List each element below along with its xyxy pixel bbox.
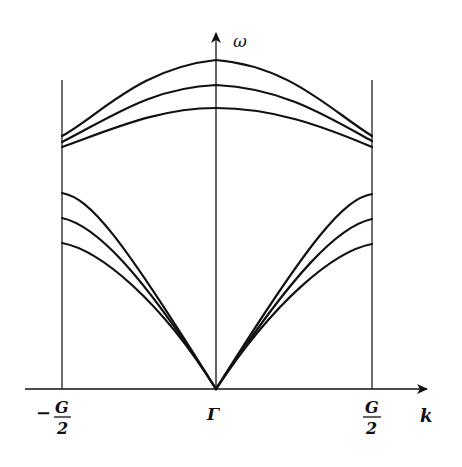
optical-branch-2 bbox=[62, 85, 372, 142]
left-tick-numerator: G bbox=[55, 398, 69, 417]
optical-branch-1 bbox=[62, 60, 372, 136]
right-tick-numerator: G bbox=[365, 398, 379, 417]
acoustic-branch-2-right bbox=[216, 219, 372, 389]
acoustic-branch-3-left bbox=[62, 243, 216, 389]
diagram-canvas: ω k Γ − G 2 G 2 bbox=[0, 0, 462, 467]
acoustic-branch-2-left bbox=[62, 218, 216, 389]
k-axis-label: k bbox=[420, 405, 432, 426]
dispersion-diagram: ω k Γ − G 2 G 2 bbox=[0, 0, 462, 467]
optical-branch-3 bbox=[62, 108, 372, 147]
left-tick-denominator: 2 bbox=[56, 419, 68, 438]
acoustic-branch-3-right bbox=[216, 244, 372, 389]
gamma-tick-label: Γ bbox=[206, 404, 221, 424]
acoustic-branch-1-right bbox=[216, 194, 372, 389]
right-tick-denominator: 2 bbox=[365, 419, 377, 438]
left-tick-sign: − bbox=[36, 402, 51, 423]
omega-axis-label: ω bbox=[233, 31, 247, 51]
